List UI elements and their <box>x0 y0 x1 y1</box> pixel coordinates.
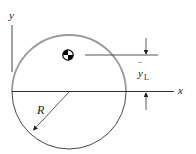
diagram-canvas: y x ‾ y L R <box>0 0 196 154</box>
x-axis-label: x <box>177 84 183 96</box>
centroid-distance-subscript: L <box>144 73 149 82</box>
radius-label: R <box>36 103 45 117</box>
centroid-distance-label: ‾ y L <box>137 62 149 82</box>
centroid-distance-symbol: y <box>137 67 143 79</box>
upper-semicircle-arc <box>12 35 126 92</box>
lower-semicircle-arc <box>12 92 126 149</box>
y-axis-label: y <box>8 9 14 21</box>
centroid-marker-icon <box>63 50 73 60</box>
